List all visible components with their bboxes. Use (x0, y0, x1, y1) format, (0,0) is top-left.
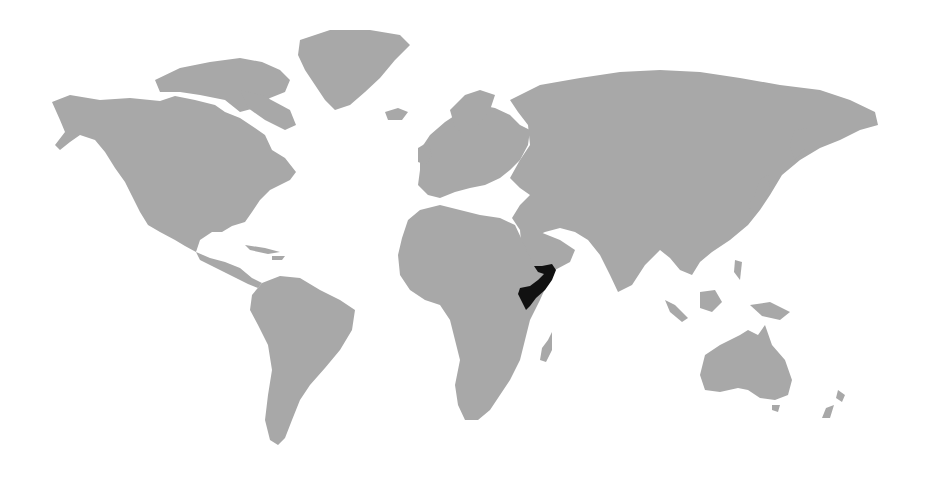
madagascar (540, 332, 552, 362)
hispaniola (272, 256, 285, 260)
central-america (196, 252, 262, 288)
north-america (52, 95, 296, 252)
tasmania (772, 405, 780, 412)
sumatra (665, 300, 688, 322)
borneo (700, 290, 722, 312)
land-masses (52, 30, 878, 445)
philippines (734, 260, 742, 280)
iceland (385, 108, 408, 120)
world-map (0, 0, 927, 483)
new-guinea (750, 302, 790, 320)
australia (700, 325, 792, 400)
new-zealand (822, 390, 845, 418)
cuba (245, 245, 280, 254)
south-america (250, 276, 355, 445)
greenland (298, 30, 410, 110)
